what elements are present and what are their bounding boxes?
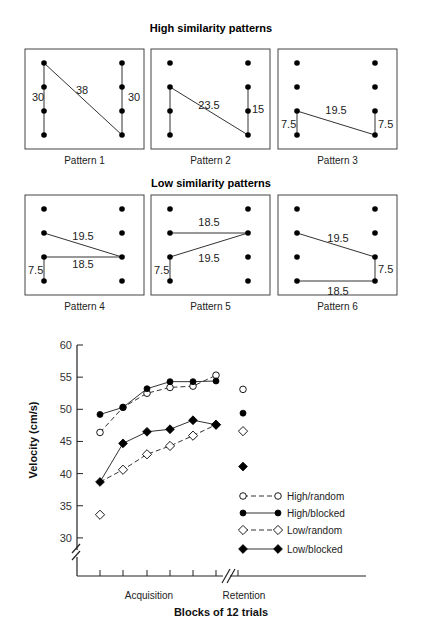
pattern-annotation: 15 [252,103,264,115]
pattern-dot [41,278,47,284]
pattern-dot [41,84,47,90]
legend-marker [274,545,283,554]
legend: High/randomHigh/blockedLow/randomLow/blo… [238,491,344,555]
pattern-dot [119,84,125,90]
pattern-label: Pattern 1 [64,155,105,166]
data-point [95,510,104,519]
pattern-6: 19.57.518.5Pattern 6 [278,195,397,312]
pattern-dot [372,60,378,66]
data-point [97,411,103,417]
legend-marker [240,510,246,516]
pattern-2: 23.515Pattern 2 [151,49,270,166]
pattern-dot [41,254,47,260]
legend-marker [239,545,248,554]
y-tick-label: 30 [60,532,72,544]
pattern-dot [294,230,300,236]
pattern-dot [245,254,251,260]
pattern-annotation: 18.5 [327,285,348,297]
pattern-label: Pattern 2 [190,155,231,166]
legend-marker [275,510,281,516]
pattern-label: Pattern 5 [190,301,231,312]
pattern-dot [294,254,300,260]
data-point [213,378,219,384]
pattern-dot [167,206,173,212]
pattern-annotation: 7.5 [154,264,169,276]
pattern-dot [294,278,300,284]
data-point [144,386,150,392]
legend-label: Low/random [287,525,342,536]
y-tick-label: 45 [60,435,72,447]
pattern-4: 19.518.57.5Pattern 4 [25,195,144,312]
pattern-dot [119,206,125,212]
retention-point [239,462,248,471]
data-point [213,372,220,379]
data-point [142,450,151,459]
pattern-dot [245,206,251,212]
pattern-dot [119,60,125,66]
series-low-random [95,420,247,519]
x-axis-label: Blocks of 12 trials [174,606,268,618]
data-point [143,427,152,436]
pattern-dot [119,230,125,236]
pattern-dot [167,60,173,66]
pattern-dot [372,132,378,138]
pattern-annotation: 7.5 [28,264,43,276]
retention-point [240,410,246,416]
pattern-label: Pattern 6 [317,301,358,312]
legend-marker [273,525,282,534]
pattern-dot [372,230,378,236]
pattern-dot [372,84,378,90]
pattern-dot [41,206,47,212]
pattern-annotation: 7.5 [378,263,393,275]
pattern-annotation: 19.5 [72,230,93,242]
data-point [96,478,105,487]
data-point [167,384,174,391]
pattern-annotation: 19.5 [325,104,346,116]
data-point [119,439,128,448]
pattern-annotation: 23.5 [198,99,219,111]
pattern-annotation: 7.5 [378,118,393,130]
pattern-dot [245,132,251,138]
pattern-3: 7.519.57.5Pattern 3 [278,49,397,166]
data-point [118,465,127,474]
pattern-dot [167,84,173,90]
pattern-dot [245,60,251,66]
pattern-dot [294,60,300,66]
pattern-dot [294,84,300,90]
pattern-dot [294,132,300,138]
pattern-dot [41,132,47,138]
pattern-dot [372,108,378,114]
pattern-dot [372,278,378,284]
pattern-dot [372,206,378,212]
pattern-dot [294,108,300,114]
velocity-chart: 30354045505560Velocity (cm/s)Acquisition… [27,339,366,618]
retention-point [238,427,247,436]
pattern-dot [245,108,251,114]
pattern-1: 303830Pattern 1 [25,49,144,166]
legend-marker [238,525,247,534]
legend-label: High/random [287,491,344,502]
pattern-annotation: 38 [76,84,88,96]
pattern-dot [167,278,173,284]
pattern-annotation: 30 [32,91,44,103]
pattern-annotation: 7.5 [281,118,296,130]
x-group-acquisition: Acquisition [125,590,173,601]
pattern-dot [167,230,173,236]
pattern-dot [372,254,378,260]
data-point [167,379,173,385]
pattern-dot [245,278,251,284]
pattern-annotation: 18.5 [198,216,219,228]
pattern-dot [167,254,173,260]
pattern-dot [119,254,125,260]
data-point [190,379,196,385]
pattern-dot [41,108,47,114]
y-axis-label: Velocity (cm/s) [27,401,39,478]
figure: High similarity patternsLow similarity p… [0,0,422,638]
data-point [97,429,104,436]
legend-marker [240,493,247,500]
legend-marker [275,493,282,500]
pattern-dot [119,132,125,138]
retention-point [240,386,247,393]
pattern-dot [119,108,125,114]
pattern-label: Pattern 3 [317,155,358,166]
